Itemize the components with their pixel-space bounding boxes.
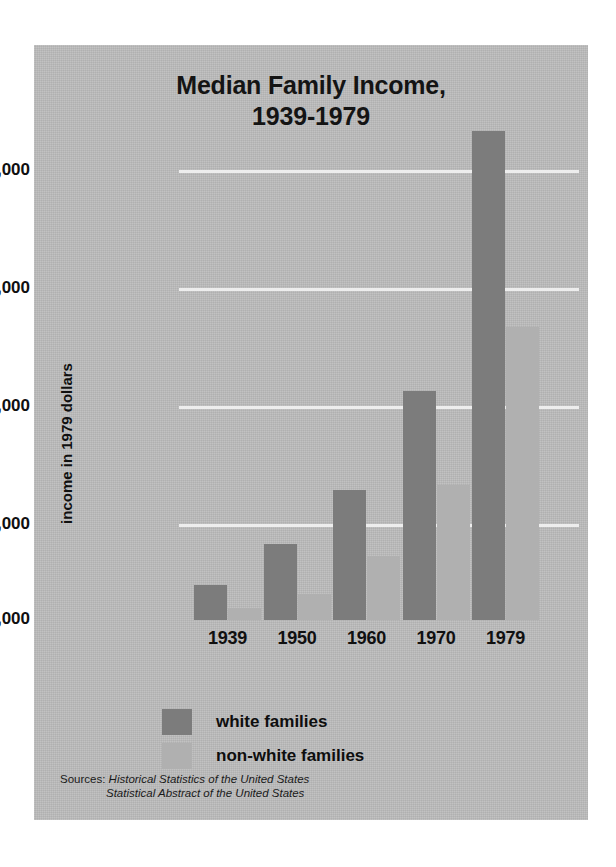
chart-panel: Median Family Income, 1939-1979 income i… bbox=[34, 45, 588, 820]
bar-1960-non-white bbox=[367, 556, 400, 620]
legend-swatch-icon bbox=[162, 743, 192, 769]
y-axis-tick-label: $10,000 bbox=[0, 396, 30, 416]
gridline bbox=[179, 288, 579, 291]
y-axis-tick-label: $20,000 bbox=[0, 160, 30, 180]
sources-note: Sources: Historical Statistics of the Un… bbox=[60, 772, 309, 800]
legend-label: white families bbox=[216, 712, 327, 732]
sources-line-2: Statistical Abstract of the United State… bbox=[106, 787, 304, 799]
bar-1970-white bbox=[403, 391, 436, 620]
chart-figure: Median Family Income, 1939-1979 income i… bbox=[0, 0, 616, 867]
legend-label: non-white families bbox=[216, 746, 364, 766]
y-axis-tick-label: $1,000 bbox=[0, 609, 30, 629]
gridline bbox=[179, 170, 579, 173]
sources-line-1: Historical Statistics of the United Stat… bbox=[109, 773, 310, 785]
x-axis-tick-label-1979: 1979 bbox=[462, 628, 549, 649]
bar-1970-non-white bbox=[437, 485, 470, 620]
bar-1979-non-white bbox=[506, 327, 539, 620]
legend-item-nonwhite-fam[interactable]: non-white families bbox=[162, 739, 364, 773]
bar-1950-white bbox=[264, 544, 297, 620]
y-axis-label: income in 1979 dollars bbox=[58, 329, 75, 559]
bar-1939-non-white bbox=[228, 608, 261, 620]
bar-1939-white bbox=[194, 585, 227, 620]
bar-1960-white bbox=[333, 490, 366, 620]
legend-swatch-icon bbox=[162, 709, 192, 735]
bar-1979-white bbox=[472, 131, 505, 620]
legend-item-white-fam[interactable]: white families bbox=[162, 705, 364, 739]
y-axis-tick-label: $15,000 bbox=[0, 278, 30, 298]
y-axis-tick-label: $5,000 bbox=[0, 514, 30, 534]
chart-legend: white familiesnon-white families bbox=[162, 705, 364, 773]
bar-1950-non-white bbox=[298, 594, 331, 620]
plot-area: income in 1979 dollars $1,000$5,000$10,0… bbox=[34, 45, 588, 820]
sources-label: Sources: bbox=[60, 773, 105, 785]
